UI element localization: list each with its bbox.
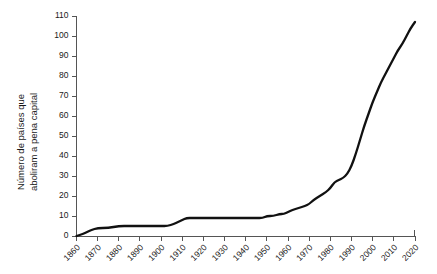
y-axis-tick-marks <box>72 16 77 236</box>
y-axis-label: Número de países que aboliram a pena cap… <box>15 93 39 191</box>
x-tick-label: 2010 <box>379 242 400 263</box>
x-tick-label: 1870 <box>83 242 104 263</box>
x-tick-label: 2000 <box>358 242 379 263</box>
x-tick-label: 1910 <box>167 242 188 263</box>
y-tick-label: 20 <box>59 190 69 200</box>
x-axis-tick-labels: 1860187018801890190019101920193019401950… <box>61 242 420 263</box>
y-tick-label: 110 <box>55 10 69 20</box>
x-tick-label: 1990 <box>336 242 357 263</box>
y-tick-label: 40 <box>59 150 69 160</box>
y-tick-label: 30 <box>59 170 69 180</box>
chart-container: Número de países que aboliram a pena cap… <box>0 0 437 274</box>
x-tick-label: 1980 <box>315 242 336 263</box>
y-tick-label: 70 <box>59 90 69 100</box>
x-tick-label: 1920 <box>188 242 209 263</box>
x-tick-label: 1880 <box>104 242 125 263</box>
x-tick-label: 1950 <box>252 242 273 263</box>
x-tick-label: 1860 <box>61 242 82 263</box>
y-tick-label: 0 <box>64 230 69 240</box>
y-axis-label-line2: aboliram a pena capital <box>28 93 39 191</box>
y-axis-tick-labels: 0102030405060708090100110 <box>54 10 68 240</box>
x-tick-label: 1890 <box>125 242 146 263</box>
y-tick-label: 60 <box>59 110 69 120</box>
line-chart: Número de países que aboliram a pena cap… <box>0 0 437 274</box>
x-tick-label: 1900 <box>146 242 167 263</box>
x-tick-label: 1930 <box>210 242 231 263</box>
x-tick-label: 1970 <box>294 242 315 263</box>
x-tick-label: 1960 <box>273 242 294 263</box>
y-axis-label-line1: Número de países que <box>15 94 26 190</box>
y-tick-label: 10 <box>59 210 69 220</box>
y-tick-label: 90 <box>59 50 69 60</box>
x-tick-label: 2020 <box>400 242 421 263</box>
data-series-line <box>77 22 416 236</box>
x-tick-label: 1940 <box>231 242 252 263</box>
y-tick-label: 80 <box>59 70 69 80</box>
y-tick-label: 100 <box>54 30 68 40</box>
y-tick-label: 50 <box>59 130 69 140</box>
